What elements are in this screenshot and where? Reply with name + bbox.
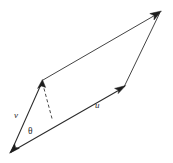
projection-drop-dashed-line (43, 83, 53, 119)
vector-u-label: u (95, 101, 100, 110)
vector-u-arrowhead (115, 86, 126, 94)
vector-v-arrowhead (38, 80, 46, 89)
vector-diagram-figure: v θ u (0, 0, 173, 163)
angle-theta-label: θ (28, 127, 33, 137)
vector-v-label: v (14, 111, 18, 120)
vector-v-translated-line (124, 14, 160, 88)
vector-u-line (11, 89, 121, 152)
origin-tail-arrowhead (10, 144, 20, 153)
resultant-arrowhead (150, 11, 162, 20)
vector-canvas (0, 0, 173, 163)
vector-u-translated-line (43, 14, 158, 81)
